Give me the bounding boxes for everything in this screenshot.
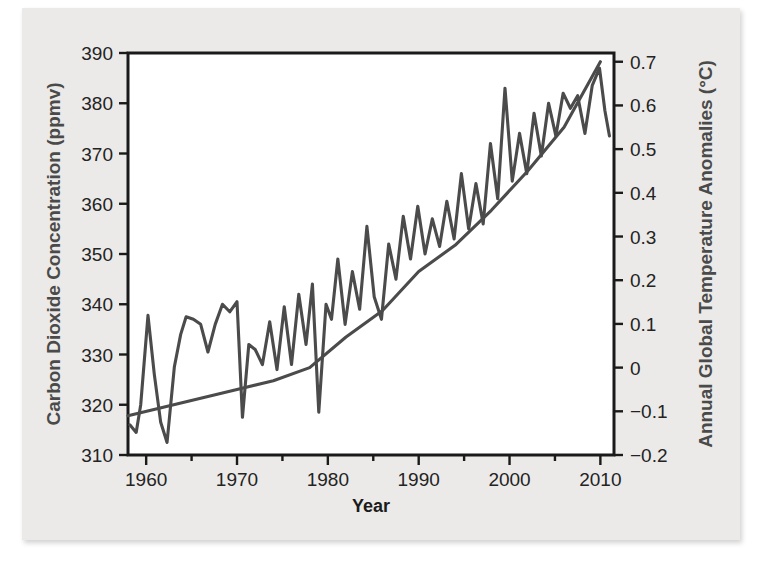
- tick-label: 0.5: [630, 139, 656, 160]
- tick-label: −0.2: [630, 445, 668, 466]
- tick-label: −0.1: [630, 401, 668, 422]
- x-axis-tick-labels: 196019701980199020002010: [125, 469, 621, 490]
- tick-label: 2000: [488, 469, 530, 490]
- tick-label: 0.6: [630, 95, 656, 116]
- tick-label: 2010: [579, 469, 621, 490]
- tick-label: 320: [81, 395, 113, 416]
- tick-label: 390: [81, 43, 113, 64]
- tick-label: 0.2: [630, 270, 656, 291]
- tick-label: 0: [630, 358, 641, 379]
- tick-label: 350: [81, 244, 113, 265]
- tick-label: 340: [81, 294, 113, 315]
- chart-svg: 310320330340350360370380390 −0.2−0.100.1…: [0, 0, 759, 567]
- left-axis-tick-labels: 310320330340350360370380390: [81, 43, 113, 466]
- tick-label: 0.3: [630, 227, 656, 248]
- chart-root: 310320330340350360370380390 −0.2−0.100.1…: [0, 0, 759, 567]
- tick-label: 370: [81, 144, 113, 165]
- tick-label: 1990: [398, 469, 440, 490]
- tick-label: 0.4: [630, 183, 657, 204]
- tick-label: 360: [81, 194, 113, 215]
- tick-label: 1960: [125, 469, 167, 490]
- right-axis-tick-labels: −0.2−0.100.10.20.30.40.50.60.7: [630, 52, 668, 466]
- tick-label: 1980: [307, 469, 349, 490]
- tick-label: 380: [81, 93, 113, 114]
- tick-label: 0.7: [630, 52, 656, 73]
- tick-label: 310: [81, 445, 113, 466]
- tick-label: 0.1: [630, 314, 656, 335]
- y-axis-title: Carbon Dioxide Concentration (ppmv): [43, 82, 64, 425]
- y2-axis-title: Annual Global Temperature Anomalies (°C): [695, 60, 716, 448]
- tick-label: 330: [81, 345, 113, 366]
- x-axis-title: Year: [352, 496, 390, 516]
- tick-label: 1970: [216, 469, 258, 490]
